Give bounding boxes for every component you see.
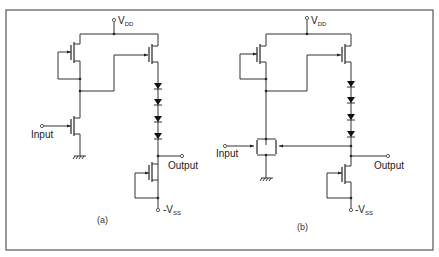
vss-terminal-a	[156, 208, 159, 211]
input-label-b: Input	[216, 148, 238, 159]
vss-terminal-b	[349, 208, 352, 211]
vdd-terminal-b	[305, 16, 308, 19]
ground-icon-b	[260, 178, 273, 181]
output-label-b: Output	[374, 160, 404, 171]
vdd-label-a: VDD	[118, 15, 134, 27]
input-label-a: Input	[31, 129, 53, 140]
output-terminal-a	[180, 154, 183, 157]
panel-b: VDD	[216, 15, 404, 232]
vdd-terminal	[112, 18, 115, 21]
output-terminal-b	[386, 154, 389, 157]
caption-b: (b)	[297, 222, 308, 232]
vss-label-a: -VSS	[163, 204, 181, 216]
vss-label-b: -VSS	[355, 204, 373, 216]
caption-a: (a)	[97, 215, 108, 225]
vdd-label-b: VDD	[311, 15, 327, 27]
ground-icon	[73, 156, 86, 159]
panel-a: VDD	[31, 15, 198, 225]
circuit-figure: VDD	[0, 0, 439, 257]
input-terminal-a	[40, 124, 43, 127]
output-label-a: Output	[168, 160, 198, 171]
